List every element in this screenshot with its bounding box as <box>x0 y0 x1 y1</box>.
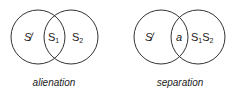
barred-subject-label: S̸ <box>145 31 155 43</box>
right-label: S1S2 <box>191 31 214 44</box>
separation-diagram: S̸ a S1S2 separation <box>134 10 225 88</box>
venn-diagrams: S̸ S1 S2 alienation S̸ a S1S2 separation <box>0 0 238 98</box>
alienation-diagram: S̸ S1 S2 alienation <box>11 10 98 88</box>
right-label: S2 <box>72 31 83 44</box>
barred-subject-label: S̸ <box>24 31 34 43</box>
caption-alienation: alienation <box>33 77 76 88</box>
object-a-label: a <box>176 31 182 43</box>
caption-separation: separation <box>157 77 204 88</box>
overlap-label: S1 <box>48 31 59 44</box>
